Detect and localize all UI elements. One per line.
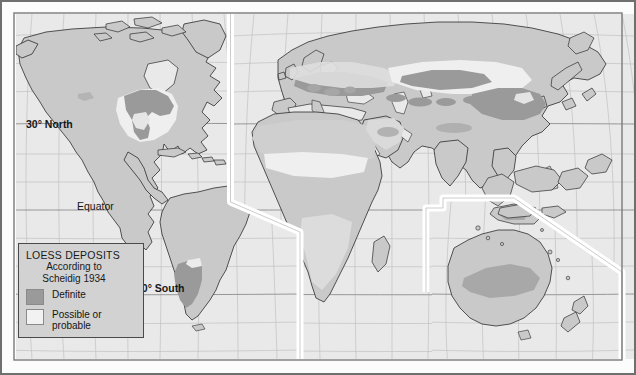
loess-patch-mesopotamia [377, 127, 399, 137]
label-equator: Equator [77, 200, 114, 212]
legend-subtitle-line2: Scheidig 1934 [26, 273, 136, 285]
legend-label-definite: Definite [52, 289, 86, 300]
legend-label-possible: Possible or probable [52, 309, 101, 331]
map-legend: LOESS DEPOSITS According to Scheidig 193… [18, 243, 144, 338]
label-30-north: 30° North [26, 118, 73, 130]
legend-label-possible-line1: Possible or [52, 309, 101, 320]
legend-title: LOESS DEPOSITS [26, 249, 136, 261]
legend-swatch-definite [26, 289, 44, 305]
legend-entries: Definite Possible or probable [26, 289, 136, 331]
legend-swatch-possible [26, 309, 44, 325]
legend-label-possible-line2: probable [52, 320, 91, 331]
legend-entry-definite: Definite [26, 289, 136, 305]
legend-entry-possible: Possible or probable [26, 309, 136, 331]
legend-subtitle-line1: According to [26, 261, 136, 273]
loess-patch-tibet [436, 123, 472, 133]
loess-deposits-map-figure: 30° North Equator 30° South LOESS DEPOSI… [0, 0, 636, 375]
